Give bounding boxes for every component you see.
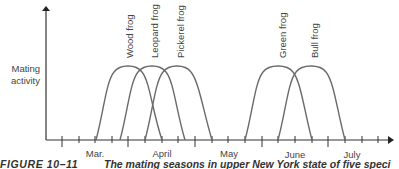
label-pickerel-frog: Pickerel frog xyxy=(175,5,186,58)
label-wood-frog: Wood frog xyxy=(124,14,135,58)
curve-green-frog xyxy=(245,66,312,140)
month-label-mar: Mar. xyxy=(86,148,104,159)
label-green-frog: Green frog xyxy=(277,13,288,58)
label-bull-frog: Bull frog xyxy=(309,23,320,58)
figure-number: FIGURE 10–11 xyxy=(0,158,78,169)
y-axis-arrow-icon xyxy=(42,6,50,11)
figure-caption: The mating seasons in upper New York sta… xyxy=(104,158,392,169)
x-axis-ticks xyxy=(62,136,378,147)
label-leopard-frog: Leopard frog xyxy=(149,4,160,58)
mating-season-diagram: Wood frog Leopard frog Pickerel frog Gre… xyxy=(0,0,399,169)
mating-curves xyxy=(96,66,345,140)
y-axis-label-line1: Mating xyxy=(11,63,40,74)
y-axis-label-line2: activity xyxy=(11,75,40,86)
curve-bull-frog xyxy=(278,66,345,140)
curve-wood-frog xyxy=(96,66,162,140)
curve-pickerel-frog xyxy=(145,66,212,140)
x-axis-arrow-icon xyxy=(388,136,394,144)
